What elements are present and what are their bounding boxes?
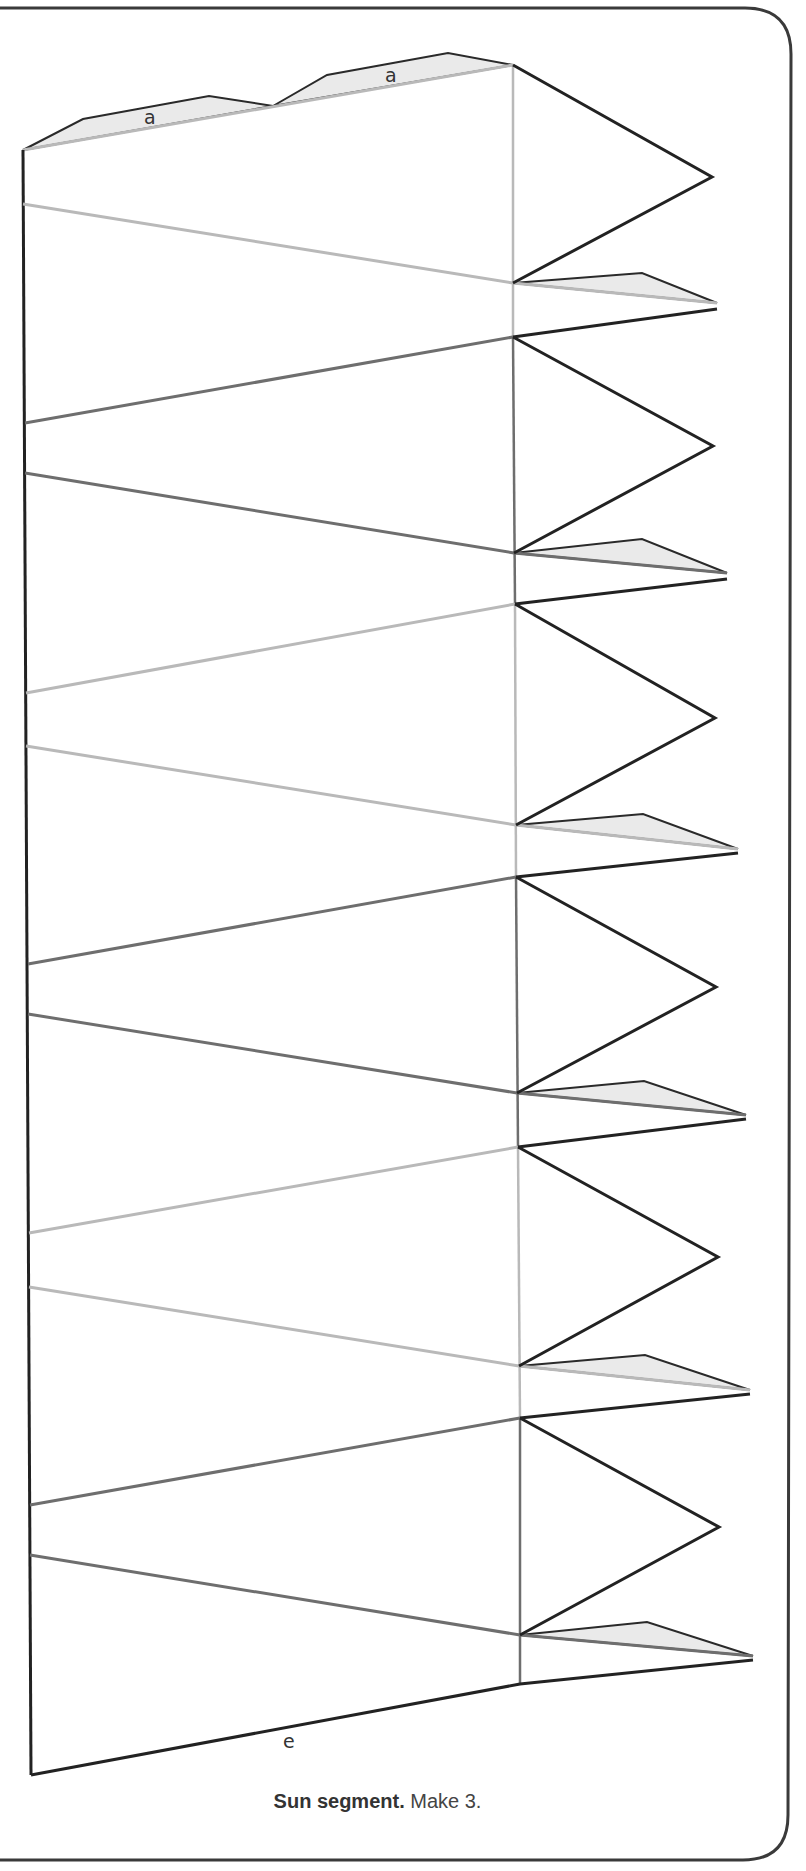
glue-tab-side-3 [516,814,738,849]
spike-1 [513,65,712,283]
glue-tab-side-4 [517,1081,746,1115]
spine-2 [513,337,515,604]
tab-label-a-2: a [385,64,397,86]
fold-line-top [23,65,513,150]
fold-line-10 [30,1418,520,1505]
sun-segment-template: a a e [0,0,806,1871]
tip-cut-4 [518,1119,746,1147]
caption-instruction: Make 3. [405,1790,482,1812]
tab-label-a-1: a [144,106,156,128]
fold-line-6 [28,877,516,964]
spine-5 [518,1147,520,1418]
spike-3 [515,604,715,825]
tip-cut-1 [513,309,717,337]
edge-label-e: e [283,1730,295,1752]
fold-line-4 [26,604,515,693]
tip-cut-2 [515,579,727,604]
caption-title: Sun segment. [274,1790,405,1812]
tip-cut-5 [520,1394,750,1418]
fold-line-8 [29,1147,518,1233]
spine-4 [516,877,518,1147]
figure-caption: Sun segment. Make 3. [0,1790,755,1813]
bottom-cut-edge [31,1684,520,1775]
spine-3 [515,604,516,877]
fold-line-2 [25,337,513,423]
spike-4 [516,877,716,1093]
spike-2 [513,337,713,553]
spike-6 [520,1418,719,1635]
glue-tab-side-5 [519,1355,750,1390]
tip-cut-3 [516,853,738,877]
spike-5 [518,1147,718,1366]
tip-cut-6 [520,1660,753,1684]
